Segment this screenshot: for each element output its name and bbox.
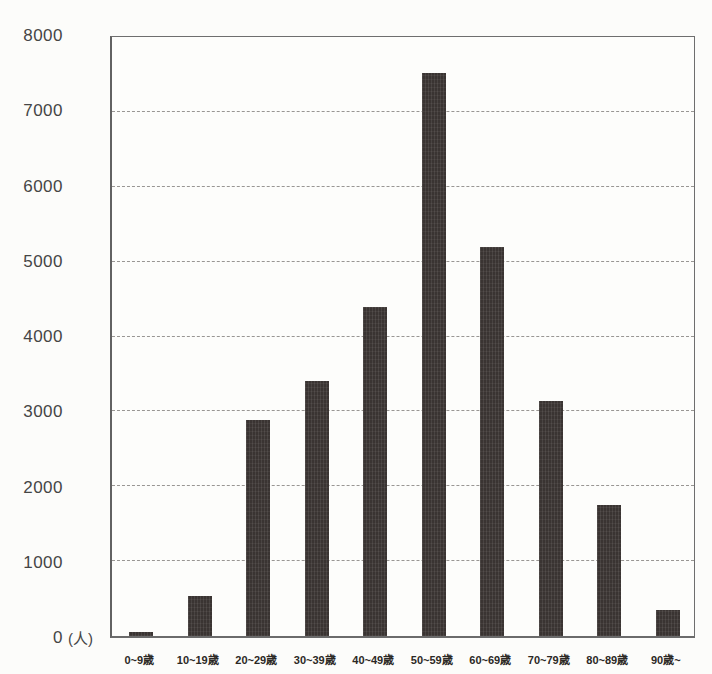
y-tick-label-1000: 1000 xyxy=(0,553,63,573)
gridline-3000 xyxy=(112,410,694,411)
y-axis-unit-label: (人) xyxy=(68,627,93,648)
x-tick-label-0-9: 0~9歳 xyxy=(110,651,169,667)
bar-70-79 xyxy=(539,401,563,636)
x-tick-label-10-19: 10~19歳 xyxy=(169,651,228,667)
y-tick-label-7000: 7000 xyxy=(0,101,63,121)
gridline-6000 xyxy=(112,186,694,187)
y-tick-label-5000: 5000 xyxy=(0,252,63,272)
x-tick-label-70-79: 70~79歳 xyxy=(520,651,579,667)
gridline-7000 xyxy=(112,111,694,112)
bar-30-39 xyxy=(305,381,329,636)
gridline-2000 xyxy=(112,485,694,486)
bar-80-89 xyxy=(597,505,621,636)
y-tick-label-2000: 2000 xyxy=(0,478,63,498)
bar-90-plus xyxy=(656,610,680,636)
bar-20-29 xyxy=(246,420,270,636)
bar-50-59 xyxy=(422,73,446,636)
bar-40-49 xyxy=(363,307,387,636)
x-tick-label-30-39: 30~39歳 xyxy=(286,651,345,667)
x-tick-label-90-plus: 90歳~ xyxy=(637,651,696,667)
bar-0-9 xyxy=(129,632,153,636)
x-tick-label-20-29: 20~29歳 xyxy=(227,651,286,667)
y-tick-label-4000: 4000 xyxy=(0,327,63,347)
plot-area xyxy=(110,36,695,638)
y-tick-label-3000: 3000 xyxy=(0,402,63,422)
y-tick-label-0: 0 xyxy=(0,628,63,648)
bar-10-19 xyxy=(188,596,212,636)
x-tick-label-60-69: 60~69歳 xyxy=(461,651,520,667)
x-tick-label-50-59: 50~59歳 xyxy=(403,651,462,667)
y-tick-label-6000: 6000 xyxy=(0,177,63,197)
gridline-5000 xyxy=(112,261,694,262)
gridline-4000 xyxy=(112,336,694,337)
bar-60-69 xyxy=(480,247,504,636)
age-distribution-bar-chart: 800070006000500040003000200010000 (人) 0~… xyxy=(0,0,712,674)
x-tick-label-40-49: 40~49歳 xyxy=(344,651,403,667)
x-tick-label-80-89: 80~89歳 xyxy=(578,651,637,667)
y-tick-label-8000: 8000 xyxy=(0,26,63,46)
